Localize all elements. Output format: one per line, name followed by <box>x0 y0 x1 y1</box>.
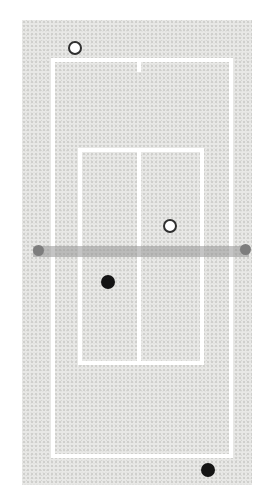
filled-marker-bottom-right[interactable] <box>201 463 215 477</box>
baseline-center-mark <box>137 60 141 72</box>
open-marker-top-left[interactable] <box>68 41 82 55</box>
net-post-left <box>33 245 44 256</box>
net-post-right <box>240 244 251 255</box>
tennis-court-diagram <box>0 0 267 499</box>
net-band <box>33 246 249 257</box>
filled-marker-left-service[interactable] <box>101 275 115 289</box>
open-marker-right-service[interactable] <box>163 219 177 233</box>
